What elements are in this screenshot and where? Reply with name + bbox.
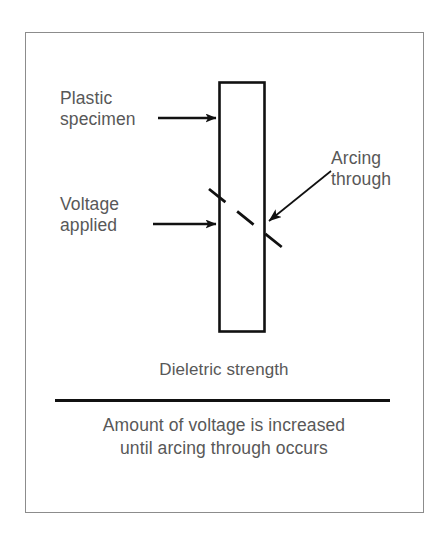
arrow-down-left-icon-arcing: [269, 171, 331, 221]
caption-description: Amount of voltage is increased until arc…: [0, 414, 448, 460]
plastic-specimen-bar: [220, 83, 265, 332]
diagram-linework: [0, 0, 448, 545]
label-arcing-through: Arcing through: [331, 148, 391, 191]
label-voltage-applied: Voltage applied: [60, 194, 119, 237]
figure-root: Plastic specimen Voltage applied Arcing …: [0, 0, 448, 545]
caption-title: Dieletric strength: [0, 360, 448, 381]
label-plastic-specimen: Plastic specimen: [60, 88, 136, 131]
